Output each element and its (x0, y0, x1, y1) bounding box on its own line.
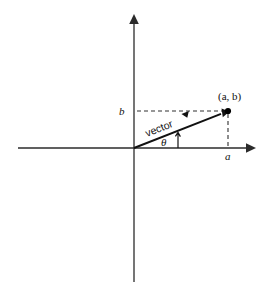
x-component-label: a (225, 150, 231, 162)
angle-label: θ (161, 136, 167, 148)
point-a-b (225, 108, 231, 114)
angle-tick-icon (175, 132, 180, 148)
y-component-label: b (119, 105, 125, 117)
point-label: (a, b) (218, 90, 242, 103)
vector-diagram: (a, b) b a θ vector (0, 0, 265, 290)
y-axis-arrowhead (129, 14, 139, 24)
horizontal-axis (18, 143, 256, 153)
figure-container: (a, b) b a θ vector (0, 0, 265, 290)
vector-label-marker-icon (181, 111, 190, 119)
vector-label: vector (143, 117, 174, 139)
x-axis-arrowhead (246, 143, 256, 153)
